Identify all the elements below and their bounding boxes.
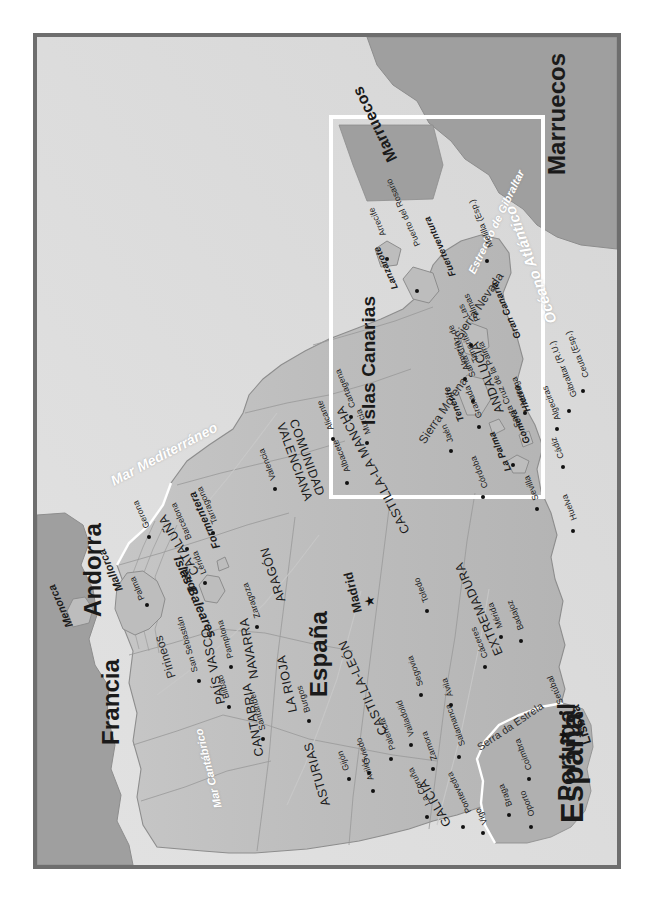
city-dot xyxy=(409,743,413,747)
city-dot xyxy=(469,343,473,347)
city-dot xyxy=(367,771,371,775)
city-dot xyxy=(347,777,351,781)
city-dot xyxy=(555,427,559,431)
map-canvas: España Francia Andorra España Portugal M… xyxy=(37,37,617,865)
city-dot xyxy=(463,377,467,381)
city-dot xyxy=(147,535,151,539)
city-dot xyxy=(425,609,429,613)
city-dot xyxy=(415,289,419,293)
city-dot xyxy=(507,813,511,817)
city-dot xyxy=(203,581,207,585)
city-dot xyxy=(581,389,585,393)
city-dot xyxy=(485,259,489,263)
city-dot xyxy=(227,705,231,709)
city-dot xyxy=(519,639,523,643)
city-dot xyxy=(229,665,233,669)
city-dot xyxy=(499,635,503,639)
country-label-andorra: Andorra xyxy=(81,523,105,617)
capital-marker-lisboa: ★ xyxy=(557,729,570,741)
city-dot xyxy=(561,465,565,469)
city-dot xyxy=(345,481,349,485)
city-dot xyxy=(559,711,563,715)
city-dot xyxy=(261,737,265,741)
city-dot xyxy=(431,767,435,771)
map-page: España Francia Andorra España Portugal M… xyxy=(0,0,651,901)
country-label-francia: Francia xyxy=(99,659,123,745)
city-dot xyxy=(419,693,423,697)
city-dot xyxy=(535,507,539,511)
city-dot xyxy=(571,529,575,533)
city-dot xyxy=(483,665,487,669)
city-dot xyxy=(471,399,475,403)
country-label-marruecos: Marruecos xyxy=(545,53,569,175)
city-dot xyxy=(197,679,201,683)
city-dot xyxy=(477,425,481,429)
city-dot xyxy=(567,409,571,413)
city-dot xyxy=(371,789,375,793)
city-dot xyxy=(461,825,465,829)
city-dot xyxy=(273,487,277,491)
city-dot xyxy=(425,815,429,819)
city-dot xyxy=(185,547,189,551)
capital-marker-madrid: ★ xyxy=(363,595,376,607)
city-dot xyxy=(389,757,393,761)
country-label-espana-main: España xyxy=(307,611,331,697)
city-dot xyxy=(145,603,149,607)
city-dot xyxy=(385,257,389,261)
city-dot xyxy=(449,703,453,707)
city-dot xyxy=(527,777,531,781)
city-dot xyxy=(307,719,311,723)
city-dot xyxy=(481,495,485,499)
canary-inset-title: Islas Canarias xyxy=(359,296,378,425)
city-dot xyxy=(481,831,485,835)
city-dot xyxy=(511,463,515,467)
city-dot xyxy=(457,755,461,759)
city-dot xyxy=(349,415,353,419)
city-dot xyxy=(529,825,533,829)
city-dot xyxy=(255,625,259,629)
map-frame: España Francia Andorra España Portugal M… xyxy=(33,33,621,869)
city-dot xyxy=(365,441,369,445)
city-dot xyxy=(449,449,453,453)
